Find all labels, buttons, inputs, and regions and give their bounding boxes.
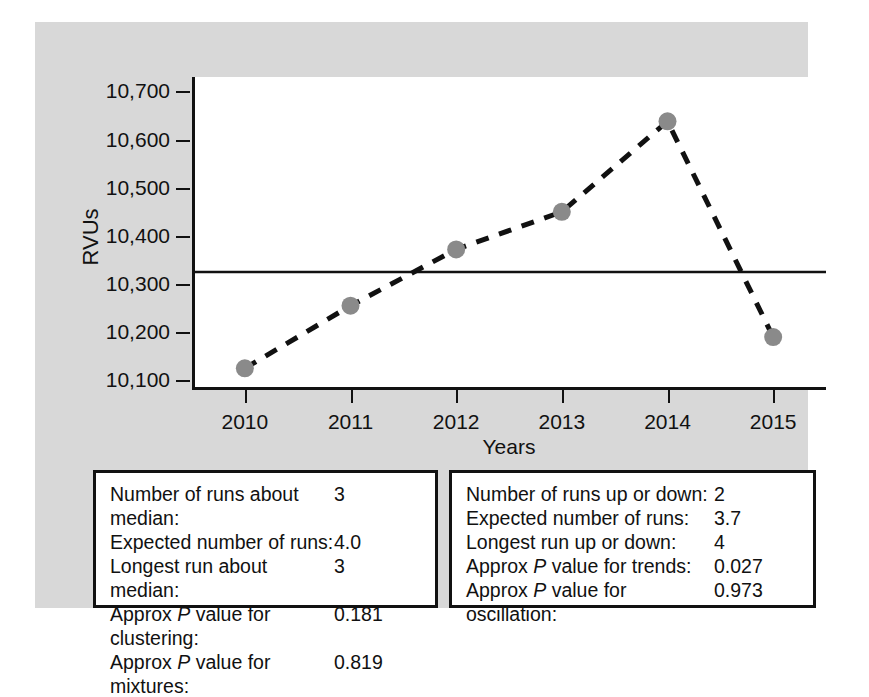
x-tick xyxy=(456,390,458,403)
y-tick xyxy=(176,91,190,93)
y-tick xyxy=(176,380,190,382)
stat-row: Expected number of runs: 4.0 xyxy=(96,530,435,554)
stat-label: Approx P value for mixtures: xyxy=(110,650,334,697)
stat-label: Expected number of runs: xyxy=(466,506,714,530)
data-point xyxy=(447,240,465,258)
data-point xyxy=(342,297,360,315)
stat-label: Approx P value for oscillation: xyxy=(466,578,714,626)
stat-row: Number of runs about median: 3 xyxy=(96,482,435,530)
stat-label: Number of runs up or down: xyxy=(466,482,714,506)
data-point xyxy=(659,112,677,130)
x-tick-label: 2015 xyxy=(750,410,797,434)
stat-label: Number of runs about median: xyxy=(110,482,334,530)
stat-value: 3 xyxy=(334,482,435,506)
data-point-markers xyxy=(236,112,782,377)
stat-value: 0.973 xyxy=(714,578,813,602)
data-point xyxy=(764,328,782,346)
stat-value: 0.027 xyxy=(714,554,813,578)
y-tick-label: 10,200 xyxy=(106,320,170,344)
plot-area: 10,10010,20010,30010,40010,50010,60010,7… xyxy=(192,77,826,390)
data-series-line xyxy=(245,121,773,368)
y-axis-title: RVUs xyxy=(78,208,104,265)
y-tick xyxy=(176,236,190,238)
y-tick xyxy=(176,284,190,286)
stat-label: Longest run up or down: xyxy=(466,530,714,554)
stat-value: 3 xyxy=(334,554,435,578)
x-tick xyxy=(351,390,353,403)
y-tick xyxy=(176,332,190,334)
stat-value: 4.0 xyxy=(334,530,435,554)
x-tick xyxy=(773,390,775,403)
stat-label: Longest run about median: xyxy=(110,554,334,602)
data-point xyxy=(236,359,254,377)
stat-value: 3.7 xyxy=(714,506,813,530)
x-tick xyxy=(668,390,670,403)
stat-value: 4 xyxy=(714,530,813,554)
y-tick-label: 10,600 xyxy=(106,128,170,152)
stat-value: 2 xyxy=(714,482,813,506)
y-tick-label: 10,100 xyxy=(106,368,170,392)
stats-box-up-or-down: Number of runs up or down: 2 Expected nu… xyxy=(449,470,816,608)
stat-row: Longest run up or down: 4 xyxy=(452,530,813,554)
y-tick-label: 10,700 xyxy=(106,79,170,103)
stat-label: Approx P value for trends: xyxy=(466,554,714,578)
x-tick-label: 2012 xyxy=(433,410,480,434)
stat-row: Approx P value for oscillation: 0.973 xyxy=(452,578,813,626)
stat-label: Expected number of runs: xyxy=(110,530,334,554)
x-tick-label: 2014 xyxy=(644,410,691,434)
stat-value: 0.819 xyxy=(334,650,435,674)
figure-gray-panel: RVUs Years 10,10010,20010,30010,40010,50… xyxy=(35,22,808,608)
stats-box-about-median: Number of runs about median: 3 Expected … xyxy=(93,470,438,608)
chart-canvas xyxy=(192,77,826,390)
data-point xyxy=(553,203,571,221)
y-tick xyxy=(176,140,190,142)
stat-row: Number of runs up or down: 2 xyxy=(452,482,813,506)
y-tick-label: 10,400 xyxy=(106,224,170,248)
stat-row: Approx P value for trends: 0.027 xyxy=(452,554,813,578)
stat-row: Approx P value for clustering: 0.181 xyxy=(96,602,435,650)
stat-value: 0.181 xyxy=(334,602,435,626)
x-tick xyxy=(562,390,564,403)
x-tick xyxy=(245,390,247,403)
stat-label: Approx P value for clustering: xyxy=(110,602,334,650)
stat-row: Longest run about median: 3 xyxy=(96,554,435,602)
x-tick-label: 2010 xyxy=(221,410,268,434)
x-axis-title: Years xyxy=(483,435,536,459)
y-tick-label: 10,500 xyxy=(106,176,170,200)
stat-row: Expected number of runs: 3.7 xyxy=(452,506,813,530)
y-tick xyxy=(176,188,190,190)
x-tick-label: 2013 xyxy=(538,410,585,434)
x-tick-label: 2011 xyxy=(328,410,373,434)
stat-row: Approx P value for mixtures: 0.819 xyxy=(96,650,435,697)
y-tick-label: 10,300 xyxy=(106,272,170,296)
